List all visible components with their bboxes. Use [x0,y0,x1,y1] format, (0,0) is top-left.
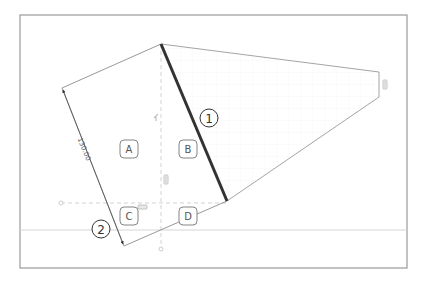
callout-2: 2 [92,220,110,238]
region-label-a[interactable]: A [120,140,138,158]
construction-endpoint-left[interactable] [59,201,63,205]
region-label-d-text: D [184,211,192,222]
construction-endpoint-bottom[interactable] [159,247,163,251]
region-label-b[interactable]: B [179,140,197,158]
callout-1: 1 [200,109,218,127]
callout-2-text: 2 [97,223,105,237]
vertical-constraint-icon[interactable] [164,175,168,184]
vertical-constraint-icon-right[interactable] [383,80,387,89]
callout-1-text: 1 [205,112,213,126]
region-label-c[interactable]: C [120,207,138,225]
region-label-a-text: A [126,144,133,155]
horizontal-constraint-icon[interactable] [138,205,147,209]
region-label-b-text: B [185,144,192,155]
sketch-canvas[interactable]: 130.00 A B C D 1 2 [0,0,426,283]
region-label-d[interactable]: D [179,207,197,225]
region-label-c-text: C [126,211,133,222]
